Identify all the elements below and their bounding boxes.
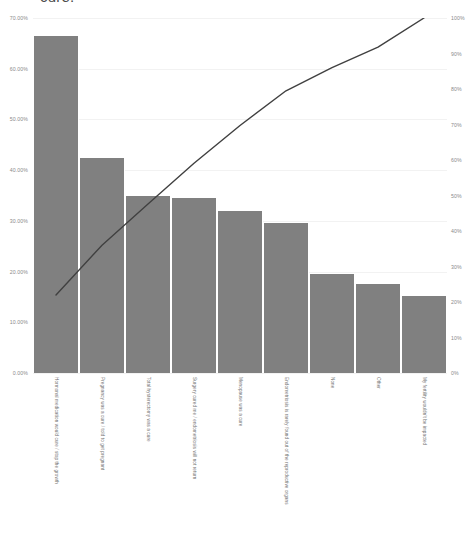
- bar-slot: [309, 18, 355, 373]
- y-tick-left: 20.00%: [10, 269, 28, 275]
- y-tick-left: 0.00%: [13, 370, 28, 376]
- bar-slot: [33, 18, 79, 373]
- pareto-chart: cure. 0.00%10.00%20.00%30.00%40.00%50.00…: [0, 0, 466, 546]
- bar[interactable]: [217, 211, 263, 373]
- y-tick-left: 60.00%: [10, 66, 28, 72]
- y-tick-left: 50.00%: [10, 116, 28, 122]
- y-tick-right: 40%: [451, 228, 462, 234]
- y-tick-right: 10%: [451, 335, 462, 341]
- bar-slot: [79, 18, 125, 373]
- x-label-slot: Pregnancy was a cure / told to get pregn…: [79, 377, 125, 546]
- x-label-slot: Endometriosis is rarely found out of the…: [263, 377, 309, 546]
- x-axis-label: My fertility wouldn't be impacted: [422, 377, 427, 445]
- bar[interactable]: [79, 158, 125, 373]
- x-axis-label: Endometriosis is rarely found out of the…: [284, 377, 289, 505]
- bar[interactable]: [401, 296, 447, 373]
- bar[interactable]: [355, 284, 401, 373]
- bar-slot: [171, 18, 217, 373]
- y-tick-right: 0%: [451, 370, 459, 376]
- bar-slot: [355, 18, 401, 373]
- chart-title: cure.: [40, 0, 74, 5]
- x-axis-category-labels: Hormonal medication would cure / stop th…: [33, 377, 447, 546]
- x-axis-label: Menopause was a cure: [238, 377, 243, 427]
- x-label-slot: Menopause was a cure: [217, 377, 263, 546]
- x-axis-label: None: [330, 377, 335, 388]
- gridline: [33, 373, 447, 374]
- y-tick-right: 30%: [451, 264, 462, 270]
- y-tick-right: 80%: [451, 86, 462, 92]
- x-label-slot: Surgery cured me / endometriosis will no…: [171, 377, 217, 546]
- x-axis-label: Other: [376, 377, 381, 389]
- bar-slot: [217, 18, 263, 373]
- x-axis-label: Hormonal medication would cure / stop th…: [54, 377, 59, 484]
- y-tick-right: 20%: [451, 299, 462, 305]
- plot-area: [33, 18, 447, 373]
- bar[interactable]: [309, 274, 355, 373]
- y-tick-right: 50%: [451, 193, 462, 199]
- x-label-slot: Hormonal medication would cure / stop th…: [33, 377, 79, 546]
- bar-slot: [401, 18, 447, 373]
- y-tick-left: 40.00%: [10, 167, 28, 173]
- bar-slot: [125, 18, 171, 373]
- bar-series: [33, 18, 447, 373]
- x-label-slot: Other: [355, 377, 401, 546]
- y-axis-left: 0.00%10.00%20.00%30.00%40.00%50.00%60.00…: [0, 18, 31, 373]
- bar[interactable]: [125, 196, 171, 374]
- x-axis-label: Pregnancy was a cure / told to get pregn…: [100, 377, 105, 470]
- bar[interactable]: [263, 223, 309, 373]
- y-tick-right: 100%: [451, 15, 465, 21]
- y-tick-left: 30.00%: [10, 218, 28, 224]
- x-label-slot: None: [309, 377, 355, 546]
- y-tick-left: 10.00%: [10, 319, 28, 325]
- x-label-slot: My fertility wouldn't be impacted: [401, 377, 447, 546]
- x-label-slot: Total hysterectomy was a cure: [125, 377, 171, 546]
- x-axis-label: Total hysterectomy was a cure: [146, 377, 151, 442]
- bar[interactable]: [171, 198, 217, 373]
- y-tick-left: 70.00%: [10, 15, 28, 21]
- y-tick-right: 60%: [451, 157, 462, 163]
- y-tick-right: 90%: [451, 51, 462, 57]
- x-axis-label: Surgery cured me / endometriosis will no…: [192, 377, 197, 479]
- y-axis-right: 0%10%20%30%40%50%60%70%80%90%100%: [449, 18, 466, 373]
- bar-slot: [263, 18, 309, 373]
- y-tick-right: 70%: [451, 122, 462, 128]
- bar[interactable]: [33, 36, 79, 373]
